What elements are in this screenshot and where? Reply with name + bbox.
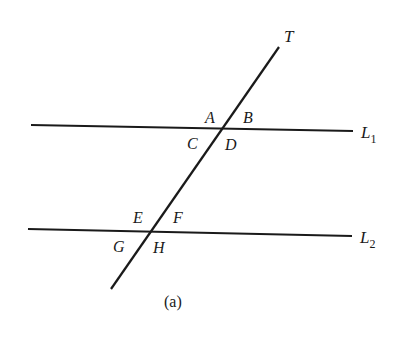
- label-l2: L2: [359, 228, 375, 251]
- label-e: E: [132, 209, 143, 226]
- figure-caption: (a): [164, 293, 182, 311]
- label-t: T: [284, 27, 295, 46]
- diagram-canvas: T A B C D E F G H L1 L2 (a): [0, 0, 400, 345]
- line-transversal-t: [111, 47, 279, 289]
- label-f: F: [172, 209, 183, 226]
- parallel-lines-transversal-diagram: T A B C D E F G H L1 L2 (a): [0, 0, 400, 345]
- label-c: C: [187, 135, 198, 152]
- line-l2: [28, 229, 352, 236]
- label-a: A: [204, 109, 215, 126]
- label-l1: L1: [360, 123, 376, 146]
- label-b: B: [243, 109, 253, 126]
- label-h: H: [152, 239, 166, 256]
- label-g: G: [113, 238, 125, 255]
- line-l1: [31, 125, 353, 131]
- label-d: D: [224, 136, 237, 153]
